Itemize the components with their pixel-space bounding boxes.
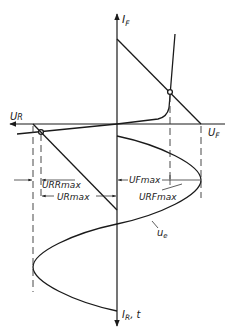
forward-operating-point (168, 90, 173, 95)
forward-load-line (117, 39, 201, 124)
label-ufmax: UFmax (129, 175, 161, 185)
axis-label-ir-t: IR, t (122, 309, 142, 322)
label-urfmax: URFmax (139, 192, 177, 202)
label-urmax: URmax (57, 192, 90, 202)
diode-characteristic-diagram: IF UR UF IR, t URRmax URmax UFmax URFmax… (0, 0, 235, 333)
label-ue: ue (157, 227, 168, 240)
diode-characteristic-curve (17, 34, 175, 134)
urfmax-leader (162, 184, 182, 190)
label-urrmax: URRmax (42, 180, 81, 190)
axis-label-if: IF (122, 13, 130, 28)
axis-label-uf: UF (208, 127, 220, 140)
axis-label-ur: UR (10, 111, 23, 122)
